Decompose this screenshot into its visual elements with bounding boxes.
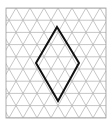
isometric-grid-diagram bbox=[0, 0, 112, 127]
rhombus-shape bbox=[36, 27, 79, 101]
triangular-grid bbox=[0, 8, 112, 118]
